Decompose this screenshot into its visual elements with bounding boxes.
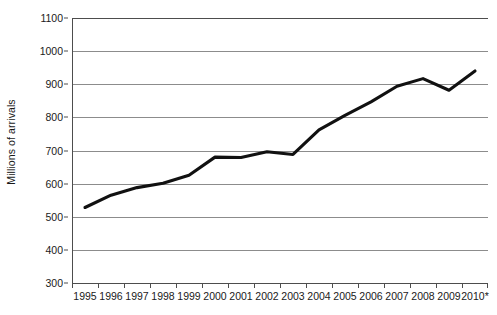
y-axis-tick-labels: 11001000900800700600500400300 (24, 0, 68, 315)
y-tick-label-900: 900 (45, 78, 63, 90)
x-tick-mark-13 (410, 284, 411, 288)
y-tick-label-800: 800 (45, 111, 63, 123)
x-tick-label-2004: 2004 (307, 290, 330, 302)
x-tick-label-2007: 2007 (385, 290, 408, 302)
x-tick-mark-1 (98, 284, 99, 288)
x-tick-mark-0 (72, 284, 73, 288)
series-line-chart (72, 18, 488, 283)
x-tick-label-2001: 2001 (229, 290, 252, 302)
plot-area (72, 18, 488, 283)
y-tick-label-700: 700 (45, 145, 63, 157)
y-tick-label-600: 600 (45, 178, 63, 190)
x-tick-label-2006: 2006 (359, 290, 382, 302)
x-tick-label-2009: 2009 (437, 290, 460, 302)
y-tick-mark-800 (64, 117, 68, 118)
x-tick-mark-10 (332, 284, 333, 288)
x-tick-label-1997: 1997 (125, 290, 148, 302)
x-tick-mark-6 (228, 284, 229, 288)
x-tick-mark-12 (384, 284, 385, 288)
y-tick-mark-1000 (64, 51, 68, 52)
x-tick-label-2000: 2000 (203, 290, 226, 302)
y-tick-mark-300 (64, 283, 68, 284)
x-tick-mark-5 (202, 284, 203, 288)
y-tick-mark-600 (64, 183, 68, 184)
x-tick-label-1999: 1999 (177, 290, 200, 302)
y-tick-label-1000: 1000 (40, 45, 63, 57)
y-tick-mark-400 (64, 249, 68, 250)
x-axis-tick-marks (72, 284, 488, 289)
x-tick-mark-4 (176, 284, 177, 288)
line-chart: Millions of arrivals 1100100090080070060… (0, 0, 497, 315)
y-tick-label-300: 300 (45, 277, 63, 289)
x-tick-mark-14 (436, 284, 437, 288)
x-tick-label-2010star: 2010* (461, 290, 488, 302)
x-tick-mark-8 (280, 284, 281, 288)
y-tick-mark-900 (64, 84, 68, 85)
y-tick-label-1100: 1100 (40, 12, 63, 24)
x-tick-label-1996: 1996 (99, 290, 122, 302)
x-tick-label-2005: 2005 (333, 290, 356, 302)
y-tick-label-500: 500 (45, 211, 63, 223)
y-axis-title-label: Millions of arrivals (5, 99, 17, 184)
x-tick-label-1998: 1998 (151, 290, 174, 302)
y-tick-mark-700 (64, 150, 68, 151)
x-tick-mark-15 (462, 284, 463, 288)
x-tick-mark-7 (254, 284, 255, 288)
x-axis-tick-labels: 1995199619971998199920002001200220032004… (72, 290, 488, 308)
y-tick-label-400: 400 (45, 244, 63, 256)
x-tick-label-2003: 2003 (281, 290, 304, 302)
y-axis-title: Millions of arrivals (0, 0, 22, 283)
series-line-international-tourist-arrivals (85, 71, 475, 207)
x-tick-mark-9 (306, 284, 307, 288)
y-tick-mark-1100 (64, 18, 68, 19)
y-tick-mark-500 (64, 216, 68, 217)
x-tick-label-2008: 2008 (411, 290, 434, 302)
x-tick-mark-11 (358, 284, 359, 288)
x-tick-mark-end (487, 284, 488, 288)
x-tick-mark-2 (124, 284, 125, 288)
x-tick-label-2002: 2002 (255, 290, 278, 302)
x-tick-mark-3 (150, 284, 151, 288)
x-tick-label-1995: 1995 (73, 290, 96, 302)
